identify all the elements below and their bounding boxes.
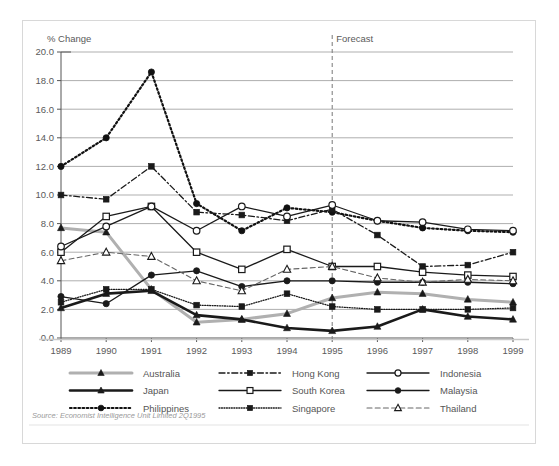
data-point-marker bbox=[284, 291, 290, 297]
data-point-marker bbox=[103, 223, 110, 230]
y-axis-title: % Change bbox=[47, 33, 91, 44]
x-axis-tick-label: 1996 bbox=[367, 345, 388, 356]
legend-label: Hong Kong bbox=[292, 368, 340, 379]
data-point-marker bbox=[284, 213, 291, 220]
y-axis-tick-label: 12.0 bbox=[36, 161, 55, 172]
data-point-marker bbox=[103, 248, 110, 255]
data-point-marker bbox=[193, 249, 199, 255]
legend-label: Malaysia bbox=[440, 385, 478, 396]
data-point-marker bbox=[98, 405, 104, 411]
data-point-marker bbox=[374, 217, 381, 224]
data-point-marker bbox=[148, 69, 154, 75]
data-point-marker bbox=[419, 219, 426, 226]
series-thailand bbox=[57, 248, 516, 293]
legend-label: Australia bbox=[143, 368, 181, 379]
legend-item-south-korea[interactable]: South Korea bbox=[219, 385, 346, 396]
data-point-marker bbox=[420, 307, 426, 313]
x-axis-tick-label: 1997 bbox=[412, 345, 433, 356]
source-note: Source: Economist Intelligence Unit Limi… bbox=[32, 411, 206, 420]
data-point-marker bbox=[375, 307, 381, 313]
data-point-marker bbox=[239, 304, 245, 310]
x-axis-ticks: 1989199019911992199319941995199619971998… bbox=[39, 338, 529, 356]
x-axis-tick-label: 1995 bbox=[322, 345, 343, 356]
legend-item-japan[interactable]: Japan bbox=[70, 385, 169, 396]
data-point-marker bbox=[374, 263, 380, 269]
data-point-marker bbox=[58, 163, 64, 169]
series-philippines bbox=[58, 69, 516, 235]
data-point-marker bbox=[103, 287, 109, 293]
chart-canvas: 0.02.04.06.08.010.012.014.016.018.020.0%… bbox=[23, 21, 535, 443]
data-point-marker bbox=[510, 305, 516, 311]
x-axis-tick-label: 1993 bbox=[231, 345, 252, 356]
data-point-marker bbox=[239, 228, 245, 234]
series-line bbox=[61, 228, 513, 322]
data-point-marker bbox=[329, 304, 335, 310]
data-point-marker bbox=[395, 388, 401, 394]
data-point-marker bbox=[149, 164, 155, 170]
legend: AustraliaJapanPhilippinesHong KongSouth … bbox=[70, 368, 482, 414]
y-axis-tick-label: 16.0 bbox=[36, 104, 55, 115]
data-point-marker bbox=[395, 370, 401, 376]
y-axis-tick-label: 0.0 bbox=[41, 332, 54, 343]
data-point-marker bbox=[465, 307, 471, 313]
data-point-marker bbox=[419, 269, 425, 275]
data-point-marker bbox=[103, 196, 109, 202]
data-point-marker bbox=[194, 200, 200, 206]
data-point-marker bbox=[58, 192, 64, 198]
y-axis-tick-label: 14.0 bbox=[36, 132, 55, 143]
data-point-marker bbox=[510, 249, 516, 255]
data-point-marker bbox=[375, 232, 381, 238]
data-point-marker bbox=[103, 301, 109, 307]
y-axis-tick-label: 20.0 bbox=[36, 46, 55, 57]
data-point-marker bbox=[149, 287, 155, 293]
legend-item-indonesia[interactable]: Indonesia bbox=[367, 368, 482, 379]
data-point-marker bbox=[284, 278, 290, 284]
legend-item-australia[interactable]: Australia bbox=[70, 368, 181, 379]
x-axis-tick-label: 1990 bbox=[96, 345, 117, 356]
data-point-marker bbox=[194, 268, 200, 274]
y-axis-tick-label: 4.0 bbox=[41, 275, 54, 286]
x-axis-tick-label: 1989 bbox=[50, 345, 71, 356]
forecast-label: Forecast bbox=[336, 33, 373, 44]
data-point-marker bbox=[239, 212, 245, 218]
x-axis-tick-label: 1998 bbox=[457, 345, 478, 356]
legend-item-hong-kong[interactable]: Hong Kong bbox=[219, 368, 340, 379]
legend-label: Japan bbox=[143, 385, 169, 396]
data-point-marker bbox=[284, 205, 290, 211]
data-point-marker bbox=[247, 370, 252, 375]
data-point-marker bbox=[148, 272, 154, 278]
data-point-marker bbox=[103, 135, 109, 141]
y-axis-tick-label: 18.0 bbox=[36, 75, 55, 86]
data-point-marker bbox=[103, 213, 109, 219]
data-point-marker bbox=[239, 266, 245, 272]
legend-label: Indonesia bbox=[440, 368, 482, 379]
data-point-marker bbox=[58, 299, 64, 305]
x-axis-tick-label: 1994 bbox=[276, 345, 297, 356]
data-point-marker bbox=[284, 246, 290, 252]
legend-item-malaysia[interactable]: Malaysia bbox=[367, 385, 478, 396]
y-axis-tick-label: 8.0 bbox=[41, 218, 54, 229]
data-point-marker bbox=[193, 277, 200, 284]
data-point-marker bbox=[239, 203, 246, 210]
data-point-marker bbox=[194, 209, 200, 215]
data-point-marker bbox=[148, 203, 155, 210]
gridlines: 0.02.04.06.08.010.012.014.016.018.020.0 bbox=[36, 46, 514, 343]
data-point-marker bbox=[510, 227, 517, 234]
x-axis-tick-label: 1991 bbox=[141, 345, 162, 356]
data-point-marker bbox=[247, 405, 252, 410]
data-point-marker bbox=[193, 227, 200, 234]
legend-item-thailand[interactable]: Thailand bbox=[367, 403, 476, 414]
data-point-marker bbox=[465, 262, 471, 268]
y-axis-tick-label: 10.0 bbox=[36, 189, 55, 200]
series-line bbox=[61, 271, 513, 304]
data-point-marker bbox=[247, 388, 253, 394]
x-axis-tick-label: 1992 bbox=[186, 345, 207, 356]
legend-item-singapore[interactable]: Singapore bbox=[219, 403, 335, 414]
data-point-marker bbox=[148, 252, 155, 259]
data-point-marker bbox=[329, 278, 335, 284]
legend-label: South Korea bbox=[292, 385, 346, 396]
x-axis-tick-label: 1999 bbox=[502, 345, 523, 356]
data-point-marker bbox=[329, 202, 336, 209]
y-axis-tick-label: 6.0 bbox=[41, 247, 54, 258]
chart-figure: 0.02.04.06.08.010.012.014.016.018.020.0%… bbox=[22, 20, 536, 444]
